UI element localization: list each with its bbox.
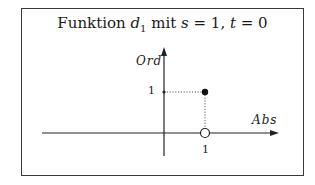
point-filled [202, 89, 208, 95]
x-axis-label: Abs [252, 113, 278, 127]
y-tick-marker [162, 90, 165, 93]
y-axis-label: Ord [136, 54, 162, 68]
y-tick-label: 1 [148, 84, 155, 97]
point-open [201, 129, 210, 138]
plot-area [0, 0, 315, 185]
x-tick-label: 1 [202, 143, 209, 156]
x-axis-arrow-icon [270, 130, 279, 136]
